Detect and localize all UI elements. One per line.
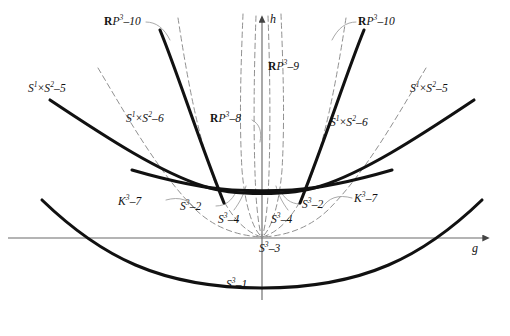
dash-outer-right — [262, 68, 426, 237]
bifurcation-diagram-svg — [0, 0, 510, 336]
label-s1s2-5-right: S1×S2–5 — [410, 83, 448, 95]
label-s3-2-right: S3–2 — [302, 199, 323, 211]
dash-inner-right — [262, 14, 284, 237]
label-rp3-10-left: RP3–10 — [104, 16, 141, 28]
label-s1s2-6-left: S1×S2–6 — [126, 113, 164, 125]
label-s1s2-6-right: S1×S2–6 — [330, 117, 368, 129]
label-s3-1: S3–1 — [226, 279, 247, 291]
h-axis-label: h — [270, 12, 276, 27]
label-s3-2-left: S3–2 — [180, 201, 201, 213]
label-k3-7-left: K3–7 — [118, 196, 141, 208]
g-axis-label: g — [472, 241, 478, 256]
label-rp3-8: RP3–8 — [210, 113, 241, 125]
label-s3-3: S3–3 — [259, 243, 280, 255]
label-k3-7-right: K3–7 — [354, 193, 377, 205]
leader-k3-7-right — [322, 196, 352, 208]
axes — [8, 19, 486, 300]
figure-canvas: h g RP3–10RP3–10RP3–9RP3–8S1×S2–5S1×S2–5… — [0, 0, 510, 336]
leader-rp3-10-left — [146, 22, 170, 40]
dash-core-left — [254, 16, 262, 237]
label-rp3-9: RP3–9 — [268, 61, 299, 73]
label-s3-4-right: S3–4 — [271, 214, 292, 226]
leader-rp3-8 — [252, 120, 261, 142]
dash-core-right — [262, 16, 270, 237]
label-s3-4-left: S3–4 — [218, 214, 239, 226]
label-rp3-10-right: RP3–10 — [358, 16, 395, 28]
label-s1s2-5-left: S1×S2–5 — [28, 83, 66, 95]
